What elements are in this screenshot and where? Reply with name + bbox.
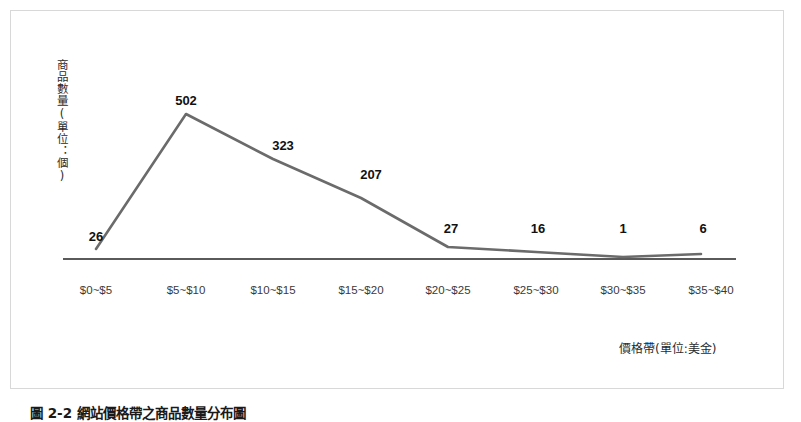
- data-label-5: 16: [531, 221, 545, 236]
- x-tick-label-1: $5~$10: [167, 284, 206, 296]
- x-tick-label-6: $30~$35: [600, 284, 645, 296]
- x-tick-label-7: $35~$40: [688, 284, 733, 296]
- data-label-1: 502: [175, 93, 197, 108]
- data-label-2: 323: [272, 138, 294, 153]
- data-series-line: [96, 114, 701, 257]
- x-axis-title: 價格帶(單位:美金): [619, 339, 716, 356]
- x-tick-label-3: $15~$20: [338, 284, 383, 296]
- x-tick-label-5: $25~$30: [513, 284, 558, 296]
- x-tick-label-2: $10~$15: [250, 284, 295, 296]
- data-label-0: 26: [89, 229, 103, 244]
- x-tick-label-4: $20~$25: [425, 284, 470, 296]
- y-axis-title: 商品數量(單位：個): [49, 59, 69, 183]
- figure-frame: 商品數量(單位：個) 26 502 323 207 27 16 1 6 $0~$…: [10, 10, 784, 389]
- x-tick-label-0: $0~$5: [80, 284, 112, 296]
- chart-plot-area: 商品數量(單位：個) 26 502 323 207 27 16 1 6 $0~$…: [11, 11, 785, 390]
- data-label-6: 1: [619, 221, 626, 236]
- data-label-7: 6: [699, 221, 706, 236]
- figure-caption: 圖 2-2 網站價格帶之商品數量分布圖: [30, 402, 246, 422]
- data-label-4: 27: [444, 221, 458, 236]
- data-label-3: 207: [360, 167, 382, 182]
- line-chart-svg: [11, 11, 785, 390]
